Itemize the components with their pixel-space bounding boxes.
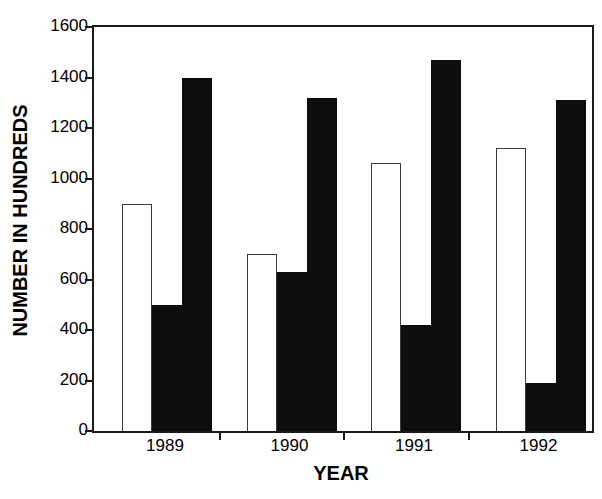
x-axis-title: YEAR — [92, 462, 590, 485]
bar-1992-series-1 — [496, 148, 526, 431]
y-axis-tick — [85, 178, 94, 180]
bar-1990-series-2 — [277, 272, 307, 431]
y-axis-tick-label: 800 — [40, 219, 88, 236]
y-axis-tick-label: 1600 — [40, 17, 88, 34]
bar-1991-series-3 — [431, 60, 461, 431]
y-axis-tick-labels: 02004006008001000120014001600 — [36, 0, 88, 499]
x-axis-tick-labels: 1989199019911992 — [92, 436, 590, 460]
y-axis-tick — [85, 329, 94, 331]
y-axis-tick — [85, 380, 94, 382]
y-axis-tick-label: 600 — [40, 269, 88, 286]
bar-1990-series-3 — [307, 98, 337, 431]
y-axis-tick-label: 1400 — [40, 67, 88, 84]
plot-inner — [94, 27, 592, 431]
plot-area — [92, 25, 594, 433]
x-axis-tick-label: 1991 — [395, 436, 433, 456]
y-axis-tick — [85, 279, 94, 281]
bar-1991-series-1 — [371, 163, 401, 431]
x-axis-tick-label: 1992 — [520, 436, 558, 456]
x-axis-tick-label: 1990 — [271, 436, 309, 456]
y-axis-tick — [85, 430, 94, 432]
y-axis-title: NUMBER IN HUNDREDS — [0, 0, 40, 440]
y-axis-tick — [85, 77, 94, 79]
y-axis-title-text: NUMBER IN HUNDREDS — [9, 104, 32, 336]
y-axis-tick-label: 200 — [40, 370, 88, 387]
y-axis-tick-label: 400 — [40, 320, 88, 337]
y-axis-tick-label: 1000 — [40, 168, 88, 185]
bar-1989-series-2 — [152, 305, 182, 431]
bar-1989-series-1 — [122, 204, 152, 431]
y-axis-tick — [85, 228, 94, 230]
y-axis-tick-label: 0 — [40, 421, 88, 438]
bar-1992-series-2 — [526, 383, 556, 431]
y-axis-tick — [85, 127, 94, 129]
bar-1991-series-2 — [401, 325, 431, 431]
x-axis-tick-label: 1989 — [146, 436, 184, 456]
bar-1989-series-3 — [182, 78, 212, 432]
y-axis-tick — [85, 26, 94, 28]
bar-chart-figure: NUMBER IN HUNDREDS 020040060080010001200… — [0, 0, 602, 499]
y-axis-tick-label: 1200 — [40, 118, 88, 135]
bar-1992-series-3 — [556, 100, 586, 431]
bar-1990-series-1 — [247, 254, 277, 431]
